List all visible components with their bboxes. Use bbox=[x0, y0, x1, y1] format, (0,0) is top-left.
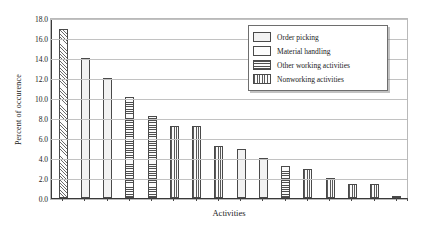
bar-slot[interactable] bbox=[386, 17, 408, 198]
y-tick-label: 4.0 bbox=[39, 155, 48, 164]
legend-label: Nonworking activities bbox=[277, 75, 344, 84]
y-tick-label: 6.0 bbox=[39, 135, 48, 144]
legend-swatch-icon bbox=[253, 46, 271, 56]
y-tick-label: 14.0 bbox=[35, 55, 48, 64]
legend-label: Material handling bbox=[277, 47, 331, 56]
x-axis-tick bbox=[262, 198, 263, 201]
x-axis-tick bbox=[151, 198, 152, 201]
bar[interactable] bbox=[214, 146, 223, 198]
x-axis-title: Activities bbox=[50, 208, 408, 218]
legend-item[interactable]: Material handling bbox=[253, 44, 382, 58]
x-axis-tick bbox=[374, 198, 375, 201]
bar-slot[interactable] bbox=[208, 17, 230, 198]
bar-slot[interactable] bbox=[74, 17, 96, 198]
bar-slot[interactable] bbox=[119, 17, 141, 198]
bar-slot[interactable] bbox=[141, 17, 163, 198]
x-axis-tick bbox=[218, 198, 219, 201]
x-axis-tick bbox=[351, 198, 352, 201]
x-axis-tick bbox=[84, 198, 85, 201]
x-axis-tick bbox=[307, 198, 308, 201]
bar[interactable] bbox=[125, 97, 134, 198]
bar-chart: Percent of occurence 18.016.014.012.010.… bbox=[0, 0, 422, 238]
bar[interactable] bbox=[303, 169, 312, 198]
x-axis-tick bbox=[173, 198, 174, 201]
bar[interactable] bbox=[170, 126, 179, 198]
x-axis-tick bbox=[107, 198, 108, 201]
gridline bbox=[51, 159, 407, 160]
gridline bbox=[51, 19, 407, 20]
x-axis-tick bbox=[407, 198, 408, 201]
bar[interactable] bbox=[326, 178, 335, 198]
legend-swatch-icon bbox=[253, 60, 271, 70]
y-axis-tick-labels: 18.016.014.012.010.08.06.04.02.00.0 bbox=[22, 18, 48, 200]
bar[interactable] bbox=[59, 29, 68, 198]
bar-slot[interactable] bbox=[97, 17, 119, 198]
legend-swatch-icon bbox=[253, 32, 271, 42]
bar-slot[interactable] bbox=[186, 17, 208, 198]
x-axis-tick bbox=[196, 198, 197, 201]
y-tick-label: 0.0 bbox=[39, 195, 48, 204]
gridline bbox=[51, 99, 407, 100]
gridline bbox=[51, 179, 407, 180]
legend-item[interactable]: Nonworking activities bbox=[253, 72, 382, 86]
bar[interactable] bbox=[103, 78, 112, 198]
x-axis-tick bbox=[240, 198, 241, 201]
x-axis-tick bbox=[285, 198, 286, 201]
legend-label: Other working activities bbox=[277, 61, 350, 70]
bar[interactable] bbox=[392, 196, 401, 198]
x-axis-line bbox=[51, 198, 407, 199]
bar[interactable] bbox=[348, 184, 357, 198]
gridline bbox=[51, 119, 407, 120]
x-axis-tick bbox=[62, 198, 63, 201]
legend-swatch-icon bbox=[253, 74, 271, 84]
y-tick-label: 2.0 bbox=[39, 175, 48, 184]
y-tick-label: 12.0 bbox=[35, 75, 48, 84]
bar[interactable] bbox=[370, 184, 379, 198]
gridline bbox=[51, 139, 407, 140]
y-tick-label: 18.0 bbox=[35, 15, 48, 24]
bar[interactable] bbox=[148, 116, 157, 198]
bar[interactable] bbox=[192, 126, 201, 198]
bar[interactable] bbox=[281, 166, 290, 198]
x-axis-tick bbox=[329, 198, 330, 201]
y-tick-label: 16.0 bbox=[35, 35, 48, 44]
bar[interactable] bbox=[259, 158, 268, 198]
bar-slot[interactable] bbox=[52, 17, 74, 198]
chart-legend: Order pickingMaterial handlingOther work… bbox=[248, 25, 388, 91]
x-axis-tick bbox=[396, 198, 397, 201]
legend-item[interactable]: Order picking bbox=[253, 30, 382, 44]
y-tick-label: 10.0 bbox=[35, 95, 48, 104]
legend-item[interactable]: Other working activities bbox=[253, 58, 382, 72]
bar[interactable] bbox=[237, 149, 246, 198]
x-axis-tick bbox=[129, 198, 130, 201]
y-tick-label: 8.0 bbox=[39, 115, 48, 124]
bar-slot[interactable] bbox=[163, 17, 185, 198]
legend-label: Order picking bbox=[277, 33, 319, 42]
